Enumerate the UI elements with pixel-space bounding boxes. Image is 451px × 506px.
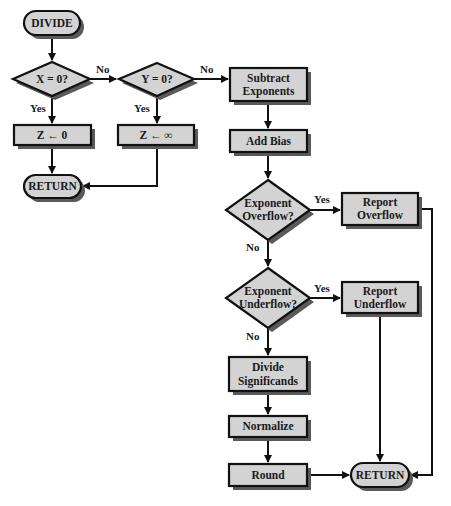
edge-z-inf-to-return [83,145,157,186]
node-subtract-line2: Exponents [243,85,295,98]
node-divide-sig-line1: Divide [252,361,284,373]
node-add-bias: Add Bias [230,130,311,156]
node-z-zero-label: Z ← 0 [37,129,68,141]
node-round: Round [229,464,311,490]
node-divide: DIVIDE [24,11,84,39]
node-return-1: RETURN [24,175,85,202]
node-subtract-line1: Subtract [247,72,290,84]
node-exponent-underflow: Exponent Underflow? [226,268,314,332]
flowchart-canvas: No Yes No Yes Yes No Yes No DIVIDE X = 0… [0,0,451,506]
node-report-underflow: Report Underflow [342,282,422,317]
node-report-overflow-line2: Overflow [357,209,404,221]
node-underflow-line1: Exponent [244,285,291,298]
node-return-2-label: RETURN [356,469,405,481]
node-overflow-line2: Overflow? [242,210,294,222]
node-divide-label: DIVIDE [31,17,73,29]
node-normalize: Normalize [229,416,311,441]
node-report-underflow-line1: Report [363,285,398,298]
node-round-label: Round [251,469,285,481]
node-return-2: RETURN [351,463,413,491]
node-report-overflow-line1: Report [363,196,398,209]
node-add-bias-label: Add Bias [246,135,292,147]
node-x-zero-label: X = 0? [36,73,68,85]
node-z-zero: Z ← 0 [14,125,95,149]
flowchart-svg: No Yes No Yes Yes No Yes No DIVIDE X = 0… [0,0,451,506]
node-overflow-line1: Exponent [244,197,291,210]
label-overflow-yes: Yes [314,193,331,205]
node-divide-significands: Divide Significands [229,357,311,395]
node-y-zero-label: Y = 0? [141,73,173,85]
node-report-underflow-line2: Underflow [354,298,407,310]
node-y-zero: Y = 0? [119,63,198,100]
node-normalize-label: Normalize [242,420,293,432]
node-z-inf-label: Z ← ∞ [139,129,172,141]
label-y-yes: Yes [134,102,151,114]
node-underflow-line2: Underflow? [239,298,297,310]
node-z-inf: Z ← ∞ [118,125,198,149]
node-exponent-overflow: Exponent Overflow? [226,180,314,244]
label-underflow-yes: Yes [314,282,331,294]
edge-report-overflow-to-return [411,209,432,475]
node-report-overflow: Report Overflow [342,193,422,229]
node-divide-sig-line2: Significands [238,375,299,388]
label-overflow-no: No [246,241,260,253]
label-x-yes: Yes [30,102,47,114]
label-underflow-no: No [246,330,260,342]
node-subtract-exponents: Subtract Exponents [230,68,311,105]
label-y-no: No [200,63,214,75]
node-return-1-label: RETURN [28,180,77,192]
node-x-zero: X = 0? [13,62,94,100]
label-x-no: No [96,63,110,75]
